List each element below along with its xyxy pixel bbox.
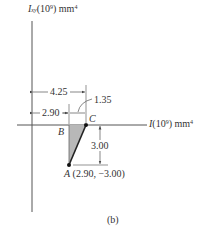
dim-label-bc: 1.35 <box>94 94 112 105</box>
dim-label-ab: 3.00 <box>91 140 109 151</box>
vertical-axis-label: Ixy(109) mm4 <box>28 3 77 14</box>
dim-label-ob: 2.90 <box>42 107 60 118</box>
figure-caption: (b) <box>107 214 119 225</box>
point-c-label: C <box>89 113 96 124</box>
dim-label-oc: 4.25 <box>50 86 68 97</box>
point-a-label: A (2.90, −3.00) <box>64 168 125 179</box>
horizontal-axis-label: I(109) mm4 <box>149 118 193 129</box>
point-a-dot <box>67 163 71 167</box>
leader-1-35 <box>78 99 92 112</box>
point-b-label: B <box>58 126 64 137</box>
